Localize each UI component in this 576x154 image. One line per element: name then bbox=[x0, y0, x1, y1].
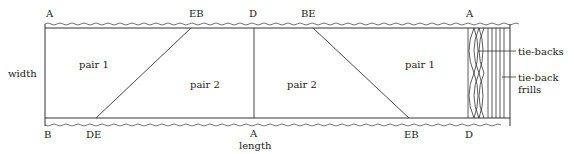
panel-pair-2-left: pair 2 bbox=[190, 79, 220, 90]
panel-pair-2-right: pair 2 bbox=[287, 79, 317, 90]
bottom-selvedge bbox=[45, 124, 501, 126]
tie-back-strips bbox=[468, 28, 504, 118]
width-label: width bbox=[8, 68, 37, 79]
tie-back-frills-label-line2: frills bbox=[518, 84, 541, 95]
cut-line-1 bbox=[96, 28, 191, 118]
label-bottom-eb: EB bbox=[404, 129, 419, 140]
label-top-be: BE bbox=[301, 8, 316, 19]
label-top-a2: A bbox=[466, 8, 473, 19]
label-bottom-d: D bbox=[465, 129, 473, 140]
label-top-eb: EB bbox=[189, 8, 204, 19]
length-label: length bbox=[239, 140, 271, 151]
tie-back-frills-label-line1: tie-back bbox=[518, 72, 559, 83]
label-top-a1: A bbox=[46, 8, 53, 19]
top-selvedge bbox=[45, 23, 519, 25]
label-top-d: D bbox=[249, 8, 257, 19]
label-bottom-de: DE bbox=[86, 129, 101, 140]
cut-line-2 bbox=[313, 28, 409, 118]
label-bottom-b: B bbox=[44, 129, 51, 140]
panel-pair-1-left: pair 1 bbox=[79, 59, 109, 70]
panel-pair-1-right: pair 1 bbox=[405, 59, 435, 70]
label-bottom-a: A bbox=[250, 128, 257, 139]
tie-backs-label: tie-backs bbox=[518, 46, 564, 57]
